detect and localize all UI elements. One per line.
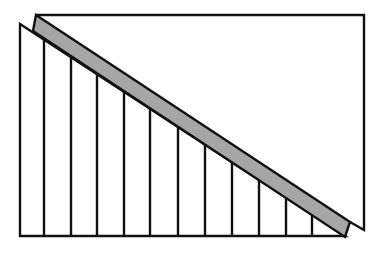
diagram-canvas: [0, 0, 378, 253]
